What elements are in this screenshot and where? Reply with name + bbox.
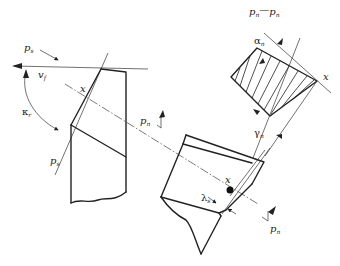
kr-arc-start-arrow-icon — [23, 69, 29, 78]
kr-angle-arc — [25, 72, 58, 130]
alpha-arrow-top-icon — [277, 38, 283, 45]
label-kr: κr — [22, 106, 32, 118]
tool-top-left-corner — [183, 135, 186, 144]
tool-lower-edge — [201, 216, 221, 254]
section-reference-line-3 — [265, 81, 317, 156]
tool-rake-line — [183, 144, 252, 163]
tool-body-right-edge — [101, 69, 126, 192]
label-lambda-s: λs — [201, 192, 210, 204]
feed-direction-line — [14, 66, 148, 69]
point-x-dot — [227, 187, 234, 194]
main-cutting-edge — [71, 69, 101, 125]
lambda-arrow-right-icon — [228, 209, 236, 214]
tool-break-line — [71, 192, 126, 203]
section-view-pn — [231, 33, 331, 158]
pn-view-marker-middle — [157, 110, 165, 128]
section-reference-line-1 — [264, 33, 331, 93]
middle-tool-view — [161, 135, 270, 254]
ps-view-arrow-icon — [40, 50, 58, 60]
normal-plane-trace — [65, 84, 258, 204]
pn-view-marker-bottom — [262, 206, 276, 221]
label-pn-bottom: pn — [270, 223, 280, 235]
label-alpha-n: αn — [254, 35, 265, 47]
left-tool-view — [12, 50, 148, 203]
cutting-tool-angle-diagram: ps vf κr ps x pn pn—pn αn x γn x λs pn — [0, 0, 340, 266]
label-ps-top: ps — [24, 42, 34, 54]
tool-lower-break-line — [161, 197, 201, 254]
section-title: pn—pn — [249, 4, 280, 18]
label-x-section: x — [323, 71, 329, 82]
gamma-arrow-top-icon — [253, 109, 260, 115]
tool-left-edge — [161, 144, 183, 197]
label-x-left: x — [80, 83, 86, 94]
label-x-mid: x — [225, 174, 231, 185]
pn-marker-corner — [157, 116, 161, 128]
pn-marker-arrow-bottom-icon — [268, 206, 276, 215]
section-hatching — [235, 51, 314, 114]
section-outline — [231, 48, 317, 116]
label-vf: vf — [38, 69, 48, 82]
label-gamma-n: γn — [254, 127, 264, 139]
alpha-arrow-bottom-icon — [259, 58, 265, 64]
label-ps-bottom: ps — [50, 155, 60, 167]
feed-arrow-icon — [12, 63, 22, 69]
tool-face-edge — [71, 125, 126, 157]
label-pn-middle: pn — [140, 115, 150, 127]
pn-marker-corner-bottom — [262, 211, 268, 221]
pn-marker-arrow-icon — [159, 110, 165, 118]
